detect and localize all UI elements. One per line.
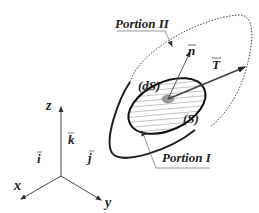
stress-diagram: Portion II Portion I n T (dS) (S) z x y … bbox=[0, 0, 259, 213]
portion-2-label: Portion II bbox=[115, 16, 170, 31]
element-area-label: (dS) bbox=[138, 78, 160, 93]
section-surface bbox=[120, 67, 215, 145]
y-axis bbox=[61, 176, 101, 200]
section-label: (S) bbox=[183, 111, 199, 126]
z-axis-label: z bbox=[45, 98, 52, 113]
y-axis-label: y bbox=[103, 195, 112, 210]
x-axis-label: x bbox=[13, 178, 21, 193]
diagram-canvas: Portion II Portion I n T (dS) (S) z x y … bbox=[0, 0, 259, 213]
portion-1-label: Portion I bbox=[162, 150, 212, 165]
j-unit-label: j bbox=[86, 150, 92, 165]
traction-vector-label: T bbox=[212, 57, 221, 72]
k-unit-label: k bbox=[68, 132, 75, 147]
x-axis bbox=[21, 176, 61, 199]
i-unit-label: i bbox=[37, 151, 41, 166]
